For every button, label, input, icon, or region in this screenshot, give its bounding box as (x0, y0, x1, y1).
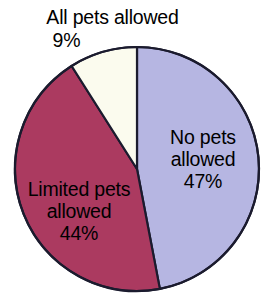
slice-label-limited-pets-value: 44% (4, 222, 154, 244)
slice-label-limited-pets: Limited pets allowed 44% (4, 178, 154, 245)
slice-label-no-pets-name-line-1: No pets (144, 126, 262, 148)
slice-label-all-pets-value: 9% (0, 29, 133, 51)
slice-label-no-pets-name-line-2: allowed (144, 148, 262, 170)
slice-label-limited-pets-name-line-2: allowed (4, 200, 154, 222)
slice-label-no-pets-value: 47% (144, 170, 262, 192)
slice-label-limited-pets-name-line-1: Limited pets (4, 178, 154, 200)
slice-label-no-pets: No pets allowed 47% (144, 126, 262, 193)
slice-label-all-pets: All pets allowed 9% (0, 6, 225, 51)
pie-chart: All pets allowed 9% No pets allowed 47% … (0, 0, 269, 303)
slice-label-all-pets-name: All pets allowed (0, 6, 225, 28)
